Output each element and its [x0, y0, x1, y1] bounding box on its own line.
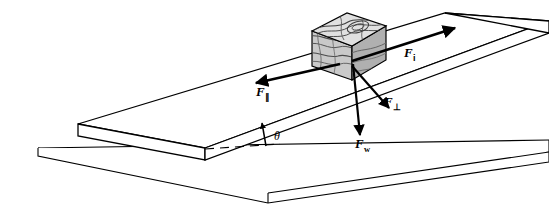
f-weight-symbol: F — [354, 136, 364, 151]
f-perpendicular-symbol: F — [383, 94, 393, 109]
f-parallel-symbol: F — [255, 84, 265, 99]
label-f-perpendicular: F ⊥ — [383, 94, 401, 112]
theta-symbol: θ — [274, 129, 280, 143]
ground-plane — [38, 140, 549, 203]
f-sub-i-subscript: i — [413, 53, 416, 63]
f-parallel-subscript: ∥ — [265, 92, 270, 103]
f-perpendicular-subscript: ⊥ — [393, 102, 401, 112]
force-diagram-figure: F i F ∥ F ⊥ F w θ — [0, 0, 549, 210]
label-theta: θ — [274, 129, 280, 143]
diagram-canvas: F i F ∥ F ⊥ F w θ — [0, 0, 549, 210]
f-sub-i-symbol: F — [403, 45, 413, 60]
f-weight-subscript: w — [364, 144, 371, 154]
